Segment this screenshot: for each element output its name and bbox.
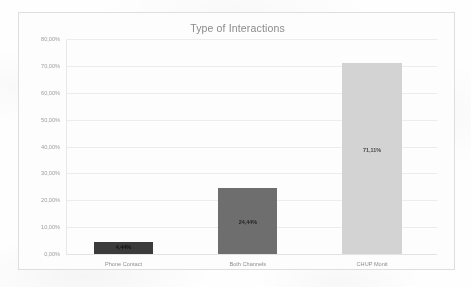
y-axis-tick-label: 60,00% [41, 90, 60, 96]
y-axis-tick-label: 10,00% [41, 224, 60, 230]
bar-chup-monit[interactable]: 71,11% CHUP Monit [342, 63, 401, 254]
bar-value-label: 24,44% [218, 219, 277, 225]
gridline-0-axis: 0,00% [66, 254, 437, 255]
gridline-80: 80,00% [66, 39, 437, 40]
bar-value-label: 71,11% [342, 147, 401, 153]
x-axis-category-label: Phone Contact [94, 261, 153, 267]
y-axis-tick-label: 70,00% [41, 63, 60, 69]
scanned-page: Type of Interactions 80,00% 70,00% 60,00… [0, 0, 471, 287]
bar-value-label: 4,44% [94, 244, 153, 250]
y-axis-tick-label: 80,00% [41, 36, 60, 42]
x-axis-category-label: CHUP Monit [342, 261, 401, 267]
y-axis-tick-label: 50,00% [41, 117, 60, 123]
bar-both-channels[interactable]: 24,44% Both Channels [218, 188, 277, 254]
y-axis-tick-label: 30,00% [41, 170, 60, 176]
plot-area: 80,00% 70,00% 60,00% 50,00% 40,00% 30,00… [66, 39, 437, 254]
chart-container: Type of Interactions 80,00% 70,00% 60,00… [18, 12, 455, 270]
y-axis-tick-label: 0,00% [44, 251, 60, 257]
y-axis-tick-label: 20,00% [41, 197, 60, 203]
x-axis-category-label: Both Channels [218, 261, 277, 267]
bar-phone-contact[interactable]: 4,44% Phone Contact [94, 242, 153, 254]
chart-title: Type of Interactions [19, 22, 456, 34]
y-axis-tick-label: 40,00% [41, 144, 60, 150]
